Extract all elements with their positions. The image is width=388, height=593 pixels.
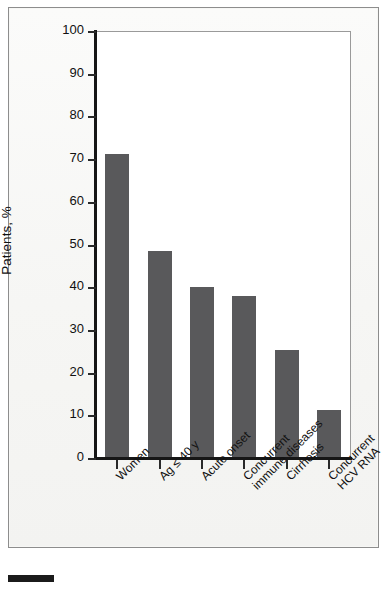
y-tick-mark <box>88 116 96 118</box>
bar <box>105 154 129 458</box>
footer-scale-marker <box>8 575 54 582</box>
y-tick-label: 70 <box>70 150 84 165</box>
y-tick-mark <box>88 415 96 417</box>
y-axis-title: Patients, % <box>0 206 14 274</box>
y-tick-mark <box>88 202 96 204</box>
y-tick-label: 100 <box>62 22 84 37</box>
plot-area <box>96 31 351 459</box>
figure-frame: Patients, % 0102030405060708090100 Women… <box>8 7 379 548</box>
y-tick-label: 0 <box>77 449 84 464</box>
y-tick-mark <box>88 74 96 76</box>
y-tick-mark <box>88 373 96 375</box>
y-tick-label: 90 <box>70 65 84 80</box>
y-tick-mark <box>88 159 96 161</box>
y-tick-mark <box>88 245 96 247</box>
y-tick-label: 10 <box>70 406 84 421</box>
y-tick-mark <box>88 458 96 460</box>
y-tick-mark <box>88 31 96 33</box>
y-tick-label: 30 <box>70 321 84 336</box>
y-tick-mark <box>88 330 96 332</box>
y-tick-label: 40 <box>70 278 84 293</box>
figure-page: Patients, % 0102030405060708090100 Women… <box>0 0 388 593</box>
y-tick-label: 20 <box>70 364 84 379</box>
y-tick-mark <box>88 287 96 289</box>
y-tick-label: 50 <box>70 236 84 251</box>
bar <box>190 287 214 458</box>
y-tick-label: 60 <box>70 193 84 208</box>
bar <box>148 251 172 458</box>
y-tick-label: 80 <box>70 107 84 122</box>
